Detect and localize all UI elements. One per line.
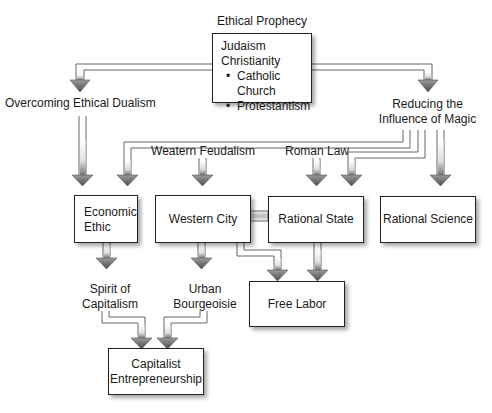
capitalist-line1: Capitalist — [131, 357, 180, 372]
reducing-magic-label: Reducing the Influence of Magic — [365, 97, 490, 127]
western-city-box: Western City — [155, 195, 251, 243]
religion-judaism: Judaism — [221, 39, 311, 54]
overcoming-ethical-dualism-label: Overcoming Ethical Dualism — [5, 96, 155, 111]
rational-science-label: Rational Science — [383, 212, 473, 227]
economic-ethic-line1: Economic — [84, 205, 137, 220]
economic-ethic-box: Economic Ethic — [74, 195, 138, 243]
free-labor-box: Free Labor — [249, 281, 345, 327]
capitalist-entrepreneurship-box: Capitalist Entrepreneurship — [108, 348, 204, 395]
free-labor-label: Free Labor — [268, 297, 327, 312]
western-feudalism-label: Weatern Feudalism — [148, 144, 258, 159]
economic-ethic-line2: Ethic — [84, 220, 137, 235]
rational-state-label: Rational State — [278, 212, 353, 227]
roman-law-label: Roman Law — [282, 144, 352, 159]
spirit-line1: Spirit of — [75, 282, 145, 297]
urban-line1: Urban — [170, 282, 240, 297]
urban-bourgeoisie-label: Urban Bourgeoisie — [170, 282, 240, 312]
spirit-line2: Capitalism — [75, 297, 145, 312]
religion-catholic: Catholic Church — [237, 69, 311, 99]
urban-line2: Bourgeoisie — [170, 297, 240, 312]
religion-box: Judaism Christianity Catholic Church Pro… — [212, 33, 312, 103]
ethical-prophecy-label: Ethical Prophecy — [212, 14, 312, 29]
religion-protestant: Protestantism — [237, 99, 311, 114]
western-city-label: Western City — [169, 212, 237, 227]
spirit-of-capitalism-label: Spirit of Capitalism — [75, 282, 145, 312]
reducing-magic-line2: Influence of Magic — [365, 112, 490, 127]
religion-christianity: Christianity — [221, 54, 311, 69]
capitalist-line2: Entrepreneurship — [110, 372, 202, 387]
rational-science-box: Rational Science — [380, 196, 476, 243]
rational-state-box: Rational State — [268, 196, 364, 243]
reducing-magic-line1: Reducing the — [365, 97, 490, 112]
